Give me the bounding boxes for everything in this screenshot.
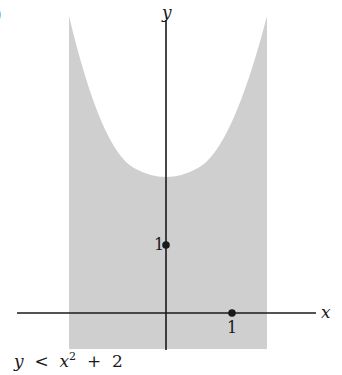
inequality-plus: + bbox=[87, 351, 101, 371]
inequality-operator: < bbox=[34, 351, 48, 371]
point-1-0 bbox=[228, 309, 236, 317]
inequality-constant: 2 bbox=[112, 351, 123, 371]
part-marker: ) bbox=[0, 2, 2, 26]
inequality-base: x bbox=[59, 351, 69, 371]
x-axis-label: x bbox=[321, 302, 331, 322]
inequality-lhs: y bbox=[14, 351, 24, 371]
inequality-exponent: 2 bbox=[69, 350, 76, 363]
inequality-caption: y < x2 + 2 bbox=[14, 350, 123, 371]
y-tick-1-label: 1 bbox=[154, 235, 164, 254]
graph-canvas bbox=[0, 0, 342, 375]
y-axis-label: y bbox=[162, 2, 172, 22]
x-tick-1-label: 1 bbox=[227, 318, 237, 337]
shaded-region bbox=[69, 16, 267, 349]
